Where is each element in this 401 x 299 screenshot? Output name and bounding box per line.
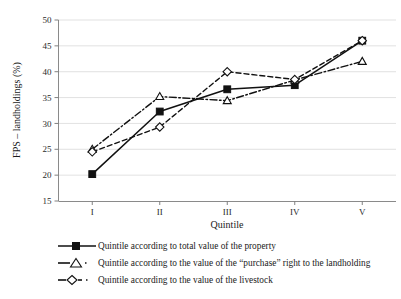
- x-axis-tick-label: III: [223, 207, 232, 217]
- y-axis-tick-label: 30: [43, 119, 53, 129]
- x-axis-tick-labels-group: IIIIIIIVV: [91, 207, 366, 217]
- chart-plot-area: 1520253035404550 IIIIIIIVV Quintile FPS …: [0, 0, 401, 232]
- series-line-0: [92, 41, 362, 174]
- legend-item-livestock: Quintile according to the value of the l…: [56, 272, 401, 288]
- data-point-marker: [156, 108, 163, 115]
- y-axis-tick-label: 25: [43, 144, 53, 154]
- y-axis-tick-label: 35: [43, 93, 53, 103]
- legend-item-property: Quintile according to total value of the…: [56, 238, 401, 254]
- data-point-marker: [224, 86, 231, 93]
- x-axis-tick-label: II: [157, 207, 163, 217]
- y-axis-tick-label: 50: [43, 15, 53, 25]
- legend-label-property: Quintile according to total value of the…: [98, 239, 276, 253]
- y-axis-tick-label: 15: [43, 196, 53, 206]
- y-axis-tick-label: 40: [43, 67, 53, 77]
- line-chart-svg: 1520253035404550 IIIIIIIVV Quintile FPS …: [0, 0, 401, 232]
- x-axis-tick-label: IV: [290, 207, 300, 217]
- series-lines-group: [92, 41, 362, 174]
- legend-item-purchase-right: Quintile according to the value of the “…: [56, 255, 401, 271]
- legend-key-filled-square: [56, 239, 98, 253]
- legend-key-open-diamond: [56, 273, 98, 287]
- chart-figure: 1520253035404550 IIIIIIIVV Quintile FPS …: [0, 0, 401, 299]
- y-axis-title: FPS – landholdings (%): [11, 62, 23, 158]
- chart-legend: Quintile according to total value of the…: [56, 238, 401, 296]
- x-axis-title: Quintile: [211, 219, 244, 230]
- legend-key-open-triangle: [56, 256, 98, 270]
- series-markers-group: [88, 36, 366, 177]
- y-axis-tick-label: 20: [43, 170, 53, 180]
- y-axis-tick-labels-group: 1520253035404550: [43, 15, 53, 206]
- x-axis-tick-label: V: [359, 207, 366, 217]
- data-point-marker: [89, 171, 96, 178]
- legend-label-livestock: Quintile according to the value of the l…: [98, 273, 273, 287]
- y-axis-tick-label: 45: [43, 41, 53, 51]
- y-axis-ticks-group: [55, 20, 59, 201]
- legend-label-purchase-right: Quintile according to the value of the “…: [98, 256, 370, 270]
- data-point-marker: [358, 57, 366, 64]
- x-axis-tick-label: I: [91, 207, 94, 217]
